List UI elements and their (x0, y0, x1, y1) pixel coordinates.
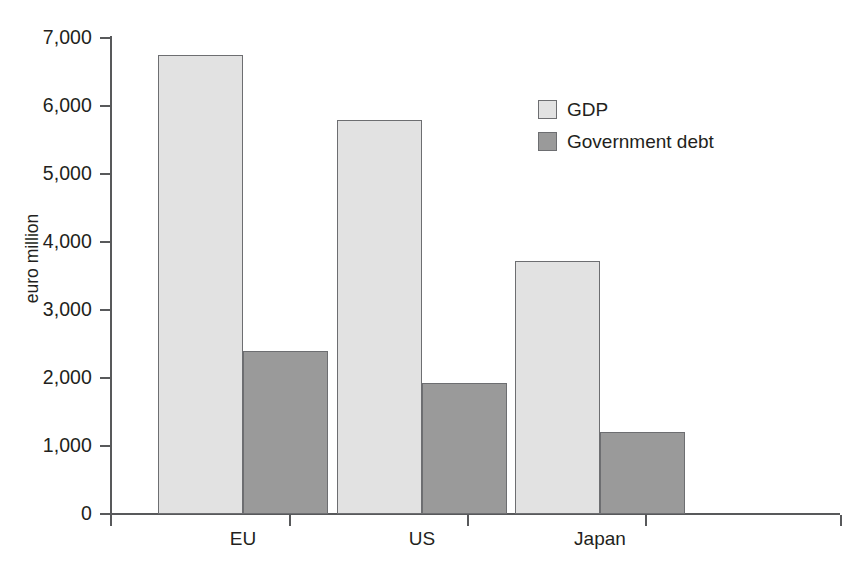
y-tick-label: 4,000 (0, 232, 92, 252)
legend: GDPGovernment debt (538, 100, 714, 164)
y-tick-label: 7,000 (0, 28, 92, 48)
x-category-label-us: US (342, 528, 502, 550)
bar-eu-government-debt (243, 351, 328, 514)
y-tick-label: 2,000 (0, 368, 92, 388)
x-category-label-japan: Japan (520, 528, 680, 550)
legend-swatch-icon (538, 100, 557, 119)
legend-item-gdp: GDP (538, 100, 714, 119)
y-tick-label: 3,000 (0, 300, 92, 320)
bar-japan-government-debt (600, 432, 685, 514)
y-tick-label: 6,000 (0, 96, 92, 116)
bar-eu-gdp (158, 55, 243, 514)
x-tick-mark (289, 515, 291, 526)
legend-label: Government debt (567, 132, 714, 151)
bar-japan-gdp (515, 261, 600, 514)
x-category-label-eu: EU (163, 528, 323, 550)
legend-label: GDP (567, 100, 608, 119)
x-tick-mark (110, 515, 112, 526)
bar-group-container (110, 38, 840, 514)
y-tick-label: 1,000 (0, 436, 92, 456)
legend-item-government-debt: Government debt (538, 132, 714, 151)
bar-chart: euro million 01,0002,0003,0004,0005,0006… (0, 0, 855, 566)
x-tick-mark (840, 515, 842, 526)
x-tick-mark (645, 515, 647, 526)
bar-us-government-debt (422, 383, 507, 514)
y-axis-title: euro million (22, 164, 43, 354)
y-tick-label: 5,000 (0, 164, 92, 184)
legend-swatch-icon (538, 132, 557, 151)
y-tick-label: 0 (0, 504, 92, 524)
x-tick-mark (467, 515, 469, 526)
bar-us-gdp (337, 120, 422, 514)
